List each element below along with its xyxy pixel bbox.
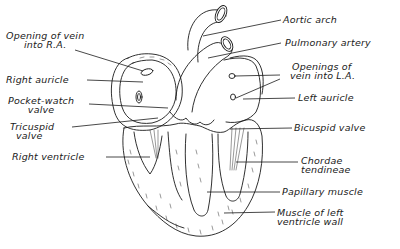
label-muscle-of-left-ventricle-wall: Muscle of left ventricle wall xyxy=(277,208,343,226)
label-aortic-arch: Aortic arch xyxy=(283,15,337,24)
label-line-2: ventricle wall xyxy=(277,217,343,226)
label-bicuspid-valve: Bicuspid valve xyxy=(294,123,365,132)
label-right-auricle: Right auricle xyxy=(6,75,69,84)
label-line-2: into R.A. xyxy=(6,40,84,49)
label-papillary-muscle: Papillary muscle xyxy=(282,187,363,196)
label-line-2: valve xyxy=(10,131,54,140)
label-line-2: tendineae xyxy=(301,165,351,174)
great-vessels-drawing xyxy=(176,4,235,112)
label-pocket-watch-valve: Pocket-watch valve xyxy=(8,96,74,114)
label-left-auricle: Left auricle xyxy=(298,93,354,102)
label-line-2: vein into L.A. xyxy=(290,71,355,80)
label-pulmonary-artery: Pulmonary artery xyxy=(285,38,371,47)
leader-lines xyxy=(72,20,298,213)
label-opening-of-vein-into-ra: Opening of vein into R.A. xyxy=(6,31,84,49)
label-line-2: valve xyxy=(8,105,74,114)
label-right-ventricle: Right ventricle xyxy=(12,152,85,161)
label-openings-of-vein-into-la: Openings of vein into L.A. xyxy=(292,62,355,80)
label-chordae-tendineae: Chordae tendineae xyxy=(301,156,351,174)
label-tricuspid-valve: Tricuspid valve xyxy=(10,122,54,140)
